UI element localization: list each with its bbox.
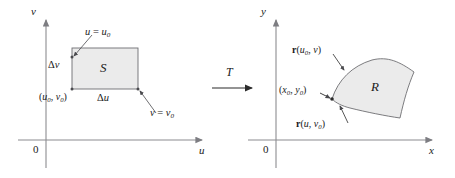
delta-v-var: v [55,59,60,70]
label-r-u-v0: r(u, v0) [296,119,325,131]
pt-xy-close: ) [303,84,306,95]
region-s-label: S [100,61,107,74]
edge-dot-v-equals-v0 [137,88,140,91]
pt-uv-close: ) [64,91,67,102]
label-point-x0-y0: (x0, y0) [279,85,306,97]
corner-dot-u0v0 [71,88,74,91]
delta-u-var: u [104,92,109,103]
v-equals-sub: 0 [171,112,175,120]
transformation-figure: v u 0 S u = u0 v = v0 Δv Δu (u0, v0) T y… [0,0,455,178]
region-r-label: R [371,80,379,93]
leader-x0y0 [320,93,330,98]
transformation-label: T [226,66,233,78]
u-axis-label: u [199,145,205,156]
v-equals-sign: = [155,107,166,118]
label-u-equals-u0: u = u0 [85,27,110,39]
xy-origin-label: 0 [263,144,269,155]
delta-u-symbol: Δ [97,92,104,103]
label-delta-u: Δu [97,93,109,104]
corner-dot-x0y0 [330,97,334,101]
edge-dot-u-equals-u0 [71,56,74,59]
u-equals-sign: = [90,26,101,37]
leader-r-u-v0 [340,106,348,123]
label-point-u0-v0: (u0, v0) [39,92,67,104]
r-lower-close: ) [322,118,325,129]
u-equals-sub: 0 [107,31,111,39]
y-axis-label: y [261,6,266,17]
label-r-u0-v: r(u0, v) [292,45,321,57]
x-axis-label: x [429,145,434,156]
r-upper-close: ) [318,44,321,55]
v-axis-label: v [31,6,36,17]
label-v-equals-v0: v = v0 [150,108,174,120]
uv-origin-label: 0 [33,144,39,155]
delta-v-symbol: Δ [48,59,55,70]
figure-canvas [0,0,455,178]
label-delta-v: Δv [48,60,59,71]
leader-r-u0-v [333,54,344,70]
